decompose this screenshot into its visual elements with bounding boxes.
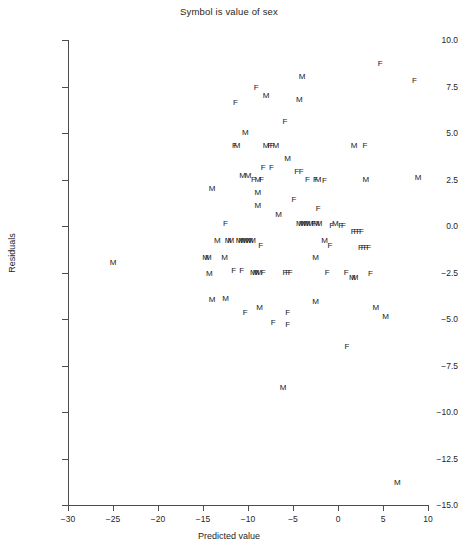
data-point-m: M xyxy=(222,295,229,303)
data-point-m: M xyxy=(256,304,263,312)
data-point-f: F xyxy=(285,321,290,329)
data-point-f: F xyxy=(232,142,237,150)
data-point-f: F xyxy=(341,222,346,230)
data-point-m: M xyxy=(221,254,228,262)
data-point-f: F xyxy=(344,269,349,277)
data-point-f: F xyxy=(233,99,238,107)
data-point-m: M xyxy=(263,92,270,100)
data-point-m: M xyxy=(351,142,358,150)
data-point-m: M xyxy=(214,237,221,245)
data-point-f: F xyxy=(269,164,274,172)
data-point-m: M xyxy=(394,479,401,487)
data-point-m: M xyxy=(316,220,323,228)
data-point-m: M xyxy=(363,176,370,184)
data-point-m: M xyxy=(249,237,256,245)
data-point-m: M xyxy=(242,129,249,137)
data-point-f: F xyxy=(270,142,275,150)
data-point-f: F xyxy=(322,177,327,185)
data-point-m: M xyxy=(275,211,282,219)
data-point-m: M xyxy=(205,254,212,262)
data-point-f: F xyxy=(288,269,293,277)
data-point-f: F xyxy=(412,77,417,85)
data-point-m: M xyxy=(255,189,262,197)
data-point-f: F xyxy=(254,84,259,92)
data-point-f: F xyxy=(316,205,321,213)
data-point-m: M xyxy=(209,296,216,304)
data-point-f: F xyxy=(325,269,330,277)
data-point-m: M xyxy=(312,254,319,262)
data-point-m: M xyxy=(299,73,306,81)
data-point-m: M xyxy=(284,155,291,163)
data-point-f: F xyxy=(363,142,368,150)
data-point-f: F xyxy=(285,309,290,317)
data-point-f: F xyxy=(345,343,350,351)
data-point-m: M xyxy=(209,185,216,193)
data-point-f: F xyxy=(251,176,256,184)
data-point-f: F xyxy=(261,269,266,277)
data-point-f: F xyxy=(368,270,373,278)
data-point-f: F xyxy=(329,222,334,230)
data-point-f: F xyxy=(305,176,310,184)
scatter-plot-figure: Symbol is value of sex 10.07.55.02.50.0−… xyxy=(0,0,458,552)
data-point-f: F xyxy=(259,176,264,184)
data-point-m: M xyxy=(382,313,389,321)
data-point-m: M xyxy=(255,202,262,210)
data-point-f: F xyxy=(378,60,383,68)
data-point-f: F xyxy=(231,267,236,275)
data-point-m: M xyxy=(296,96,303,104)
data-point-f: F xyxy=(243,309,248,317)
data-point-m: M xyxy=(280,384,287,392)
data-point-m: M xyxy=(206,270,213,278)
data-point-f: F xyxy=(299,168,304,176)
data-point-f: F xyxy=(261,164,266,172)
data-points-layer: MMMMMMMMMMMMMMMMMMMMMMMMMMMMMMMMMMMMMMMM… xyxy=(0,0,458,552)
data-point-f: F xyxy=(311,220,316,228)
data-point-m: M xyxy=(415,174,422,182)
data-point-f: F xyxy=(327,242,332,250)
data-point-m: M xyxy=(228,237,235,245)
data-point-f: F xyxy=(282,118,287,126)
data-point-f: F xyxy=(239,267,244,275)
data-point-f: F xyxy=(223,220,228,228)
data-point-m: M xyxy=(372,304,379,312)
data-point-f: F xyxy=(313,176,318,184)
data-point-m: M xyxy=(312,298,319,306)
data-point-m: M xyxy=(352,274,359,282)
data-point-m: M xyxy=(110,259,117,267)
data-point-f: F xyxy=(291,196,296,204)
data-point-f: F xyxy=(271,319,276,327)
data-point-f: F xyxy=(359,228,364,236)
data-point-f: F xyxy=(366,244,371,252)
data-point-f: F xyxy=(258,242,263,250)
